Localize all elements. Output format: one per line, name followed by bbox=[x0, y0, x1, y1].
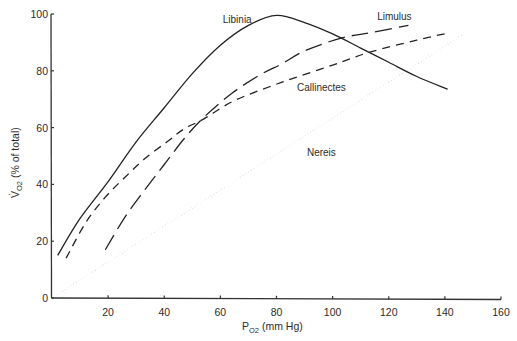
y-tick-label: 0 bbox=[42, 292, 48, 304]
y-tick-label: 20 bbox=[36, 235, 48, 247]
y-axis-label-sub: O2 bbox=[15, 181, 24, 191]
series-line-nereis bbox=[52, 35, 462, 298]
y-tick-label: 80 bbox=[36, 65, 48, 77]
x-tick-label: 40 bbox=[158, 306, 170, 318]
ticks: 20406080100120140160020406080100 bbox=[30, 8, 509, 318]
x-axis-label-main: P bbox=[242, 320, 249, 332]
series-labels: LibiniaLimulusCallinectesNereis bbox=[223, 11, 412, 158]
y-axis-label-main: V̇ bbox=[9, 191, 21, 198]
x-tick-label: 80 bbox=[271, 306, 283, 318]
y-axis-line bbox=[51, 14, 52, 298]
series-line-callinectes bbox=[66, 32, 450, 258]
series-label-libinia: Libinia bbox=[223, 14, 252, 25]
series-label-callinectes: Callinectes bbox=[297, 82, 346, 93]
x-tick-label: 20 bbox=[102, 306, 114, 318]
x-tick-label: 60 bbox=[215, 306, 227, 318]
y-tick-label: 60 bbox=[36, 122, 48, 134]
x-tick-label: 140 bbox=[436, 306, 454, 318]
y-tick-label: 100 bbox=[30, 8, 48, 20]
y-axis-label-rest: (% of total) bbox=[9, 127, 21, 181]
oxygen-consumption-chart: 20406080100120140160020406080100 Libinia… bbox=[0, 0, 517, 341]
x-tick-label: 120 bbox=[380, 306, 398, 318]
series-label-nereis: Nereis bbox=[307, 147, 336, 158]
y-axis-label: V̇O2 (% of total) bbox=[9, 127, 24, 198]
series-group bbox=[52, 15, 462, 298]
series-line-limulus bbox=[105, 25, 408, 249]
series-line-libinia bbox=[58, 15, 448, 255]
x-tick-label: 100 bbox=[324, 306, 342, 318]
y-tick-label: 40 bbox=[36, 178, 48, 190]
x-axis-label-sub: O2 bbox=[249, 326, 259, 335]
x-axis-label: PO2 (mm Hg) bbox=[242, 320, 303, 335]
series-label-limulus: Limulus bbox=[377, 11, 411, 22]
axes bbox=[51, 14, 501, 300]
x-axis-label-rest: (mm Hg) bbox=[259, 320, 303, 332]
x-tick-label: 160 bbox=[492, 306, 510, 318]
